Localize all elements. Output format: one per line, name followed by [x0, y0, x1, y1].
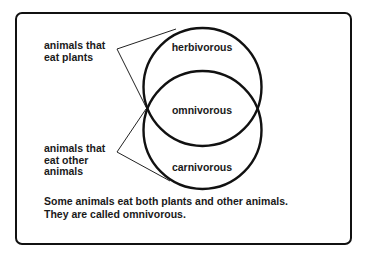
caption-line-2: They are called omnivorous.	[44, 208, 288, 221]
omnivorous-label: omnivorous	[172, 104, 232, 116]
herbivorous-label: herbivorous	[172, 41, 233, 53]
animals-label-line-1: animals that	[44, 143, 105, 155]
caption: Some animals eat both plants and other a…	[44, 195, 288, 221]
plants-label-line-1: animals that	[44, 40, 105, 52]
caption-line-1: Some animals eat both plants and other a…	[44, 195, 288, 208]
animals-label-line-3: animals	[44, 166, 105, 178]
plants-eaters-label: animals that eat plants	[44, 40, 105, 63]
carnivorous-label: carnivorous	[172, 161, 232, 173]
plants-label-line-2: eat plants	[44, 52, 105, 64]
animal-eaters-label: animals that eat other animals	[44, 143, 105, 178]
